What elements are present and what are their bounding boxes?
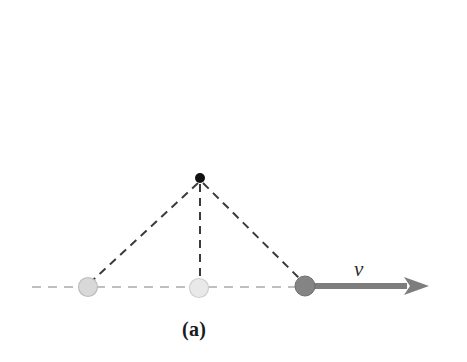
pivot-point xyxy=(195,173,205,183)
velocity-label: v xyxy=(354,257,363,282)
bob-position-left xyxy=(79,278,98,297)
figure-container: v (a) xyxy=(0,0,467,362)
panel-caption: (a) xyxy=(182,318,206,341)
figure-background xyxy=(0,0,467,362)
bob-position-middle xyxy=(190,279,209,298)
physics-diagram-svg xyxy=(0,0,467,362)
bob-position-right xyxy=(295,276,315,296)
